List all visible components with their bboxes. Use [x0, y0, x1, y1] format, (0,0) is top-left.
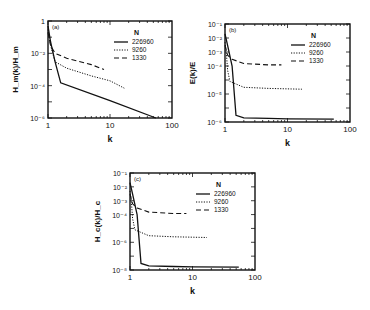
x-tick-label: 10	[188, 273, 197, 282]
plot-frame	[130, 173, 255, 270]
plot-frame	[225, 24, 350, 122]
y-tick-label: 10⁻¹	[113, 170, 128, 177]
figure-canvas: 110⁻²10⁻⁴10⁻⁶110100kH_m(k)/H_m(a)N226960…	[0, 0, 370, 310]
legend-entry: 226960	[214, 190, 236, 197]
y-tick-label: 10⁻³	[113, 198, 128, 205]
legend-entry: 9260	[132, 46, 147, 53]
y-tick-label: 10⁻³	[208, 49, 223, 56]
y-axis-label: H_c(k)/H_c	[93, 200, 102, 242]
panel-c: 10⁻¹10⁻²10⁻³10⁻⁴10⁻⁶10⁻⁸110100kH_c(k)/H_…	[93, 170, 262, 296]
legend-entry: 226960	[309, 41, 331, 48]
series-line-1330	[48, 32, 104, 69]
x-tick-label: 100	[343, 125, 357, 134]
panel-a: 110⁻²10⁻⁴10⁻⁶110100kH_m(k)/H_m(a)N226960…	[11, 18, 179, 144]
legend-title: N	[311, 32, 316, 39]
panel-label: (b)	[229, 27, 236, 33]
series-line-9260	[130, 191, 207, 238]
x-tick-label: 100	[248, 273, 262, 282]
series-line-1330	[225, 45, 281, 65]
y-tick-label: 10⁻⁵	[207, 91, 222, 98]
series-line-9260	[225, 42, 302, 89]
x-axis-label: k	[190, 286, 196, 296]
y-tick-label: 10⁻¹	[208, 21, 223, 28]
y-tick-label: 10⁻²	[31, 50, 46, 57]
panel-b: 10⁻¹10⁻²10⁻³10⁻⁴10⁻⁵10⁻⁶110100kE(k)/E(b)…	[188, 21, 357, 148]
legend-entry: 1330	[214, 206, 229, 213]
legend-entry: 1330	[309, 57, 324, 64]
y-tick-label: 10⁻²	[113, 184, 128, 191]
y-tick-label: 10⁻⁴	[112, 212, 127, 219]
y-tick-label: 10⁻⁶	[30, 115, 45, 122]
legend-entry: 226960	[132, 38, 154, 45]
y-tick-label: 10⁻⁶	[112, 239, 127, 246]
panel-label: (c)	[134, 176, 141, 182]
x-tick-label: 1	[223, 125, 228, 134]
y-tick-label: 10⁻⁸	[112, 267, 127, 274]
x-tick-label: 10	[283, 125, 292, 134]
panel-label: (a)	[52, 24, 59, 30]
legend-entry: 9260	[309, 49, 324, 56]
y-tick-label: 1	[41, 18, 45, 25]
x-tick-label: 10	[106, 121, 115, 130]
x-axis-label: k	[285, 138, 291, 148]
series-line-1330	[130, 194, 186, 213]
legend-title: N	[216, 181, 221, 188]
y-tick-label: 10⁻⁴	[30, 83, 45, 90]
legend-title: N	[134, 29, 139, 36]
legend-entry: 9260	[214, 198, 229, 205]
y-axis-label: H_m(k)/H_m	[11, 46, 20, 93]
y-tick-label: 10⁻²	[208, 35, 223, 42]
y-axis-label: E(k)/E	[188, 61, 197, 84]
y-tick-label: 10⁻⁴	[207, 63, 222, 70]
plot-frame	[48, 21, 172, 118]
legend-entry: 1330	[132, 54, 147, 61]
x-tick-label: 1	[46, 121, 51, 130]
x-tick-label: 1	[128, 273, 133, 282]
y-tick-label: 10⁻⁶	[207, 119, 222, 126]
x-tick-label: 100	[165, 121, 179, 130]
x-axis-label: k	[107, 134, 113, 144]
